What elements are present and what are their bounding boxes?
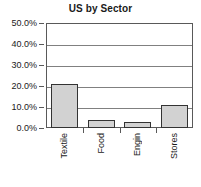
bar-food[interactable] [88,120,115,128]
y-tick-label: 0.0% [16,124,37,133]
x-tick-label-food: Food [97,133,106,154]
y-tick-mark [39,86,44,87]
y-tick-mark [39,107,44,108]
y-tick-label: 20.0% [11,82,37,91]
y-tick-label: 40.0% [11,40,37,49]
y-tick-mark [39,128,44,129]
y-tick-mark [39,65,44,66]
x-tick-label-stores: Stores [170,133,179,159]
y-axis: 0.0%10.0%20.0%30.0%40.0%50.0% [0,23,44,128]
bar-stores[interactable] [161,105,188,128]
bar-textile[interactable] [51,84,78,128]
y-tick-label: 10.0% [11,103,37,112]
y-tick-mark [39,23,44,24]
y-tick-mark [39,44,44,45]
x-axis: TextileFoodEnginStores [46,133,193,187]
x-tick-label-textile: Textile [60,133,69,159]
bar-chart: US by Sector 0.0%10.0%20.0%30.0%40.0%50.… [0,0,201,187]
x-tick-label-engin: Engin [133,133,142,156]
y-tick-label: 50.0% [11,19,37,28]
y-tick-label: 30.0% [11,61,37,70]
chart-title: US by Sector [0,3,201,14]
bars-layer [46,23,193,128]
